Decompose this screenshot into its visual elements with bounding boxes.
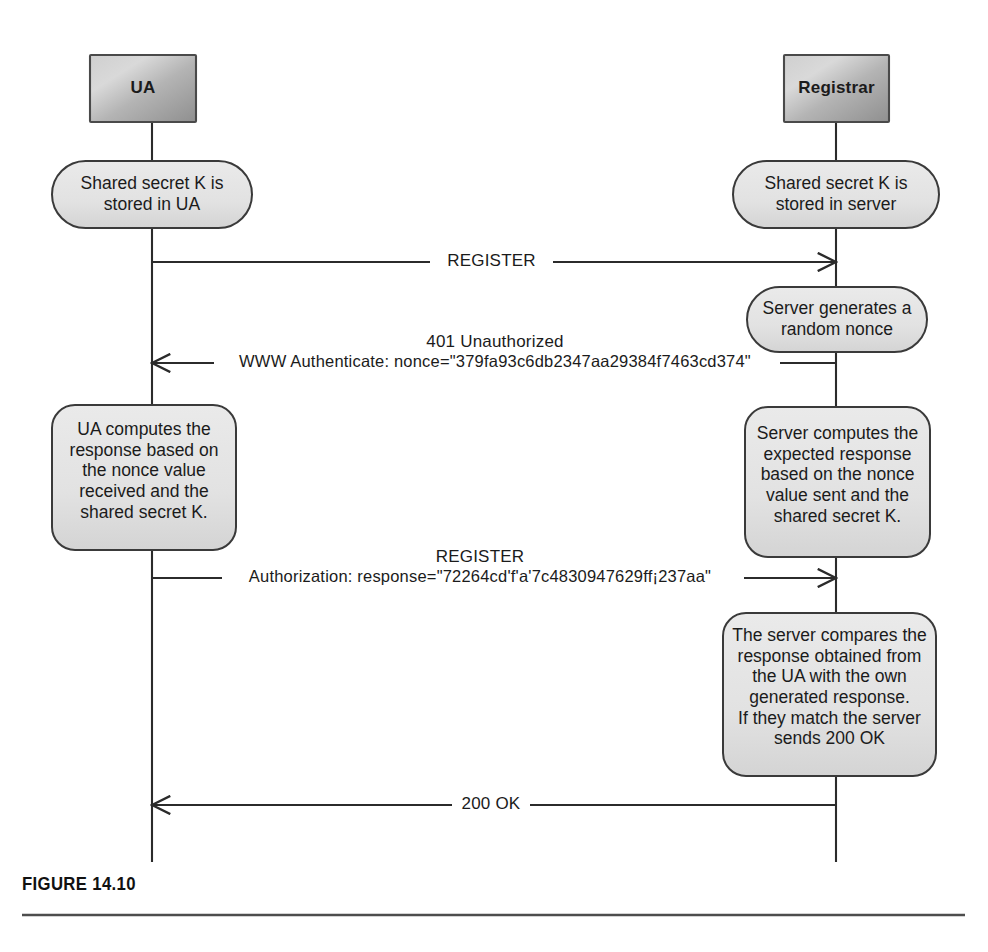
note-line: Shared secret K is xyxy=(733,173,939,194)
note-line: If they match the server xyxy=(721,708,938,729)
message-line: WWW Authenticate: nonce="379fa93c6db2347… xyxy=(200,352,790,371)
note-line: shared secret K. xyxy=(52,502,236,523)
note-line: UA computes the xyxy=(52,419,236,440)
message-line: Authorization: response="72264cd'f'a'7c4… xyxy=(200,567,760,586)
message-label-200-ok: 200 OK xyxy=(452,794,530,814)
note-line: the nonce value xyxy=(52,460,236,481)
message-label-register-2: REGISTER Authorization: response="72264c… xyxy=(200,547,760,587)
message-line: REGISTER xyxy=(200,547,760,567)
message-label-register-1: REGISTER xyxy=(432,251,551,271)
note-line: the UA with the own xyxy=(721,666,938,687)
note-line: value sent and the xyxy=(742,485,933,506)
note-text-server-compares: The server compares the response obtaine… xyxy=(721,625,938,749)
note-line: Server generates a xyxy=(742,298,932,319)
actor-label-registrar: Registrar xyxy=(784,78,889,98)
note-line: generated response. xyxy=(721,687,938,708)
note-line: response based on xyxy=(52,440,236,461)
actor-label-ua: UA xyxy=(90,78,196,98)
note-line: stored in UA xyxy=(52,194,252,215)
figure-container: UA Registrar Shared secret K is stored i… xyxy=(0,0,988,952)
note-line: Server computes the xyxy=(742,423,933,444)
note-line: stored in server xyxy=(733,194,939,215)
note-text-ua-shared-secret: Shared secret K is stored in UA xyxy=(52,173,252,214)
message-line: 401 Unauthorized xyxy=(200,332,790,352)
note-line: response obtained from xyxy=(721,646,938,667)
note-text-server-computes: Server computes the expected response ba… xyxy=(742,423,933,526)
note-line: Shared secret K is xyxy=(52,173,252,194)
note-line: based on the nonce xyxy=(742,464,933,485)
note-line: received and the xyxy=(52,481,236,502)
note-text-server-shared-secret: Shared secret K is stored in server xyxy=(733,173,939,214)
message-label-401-unauthorized: 401 Unauthorized WWW Authenticate: nonce… xyxy=(200,332,790,372)
figure-caption: FIGURE 14.10 xyxy=(22,873,136,895)
note-line: The server compares the xyxy=(721,625,938,646)
note-line: sends 200 OK xyxy=(721,728,938,749)
note-line: expected response xyxy=(742,444,933,465)
note-line: shared secret K. xyxy=(742,506,933,527)
note-text-ua-computes: UA computes the response based on the no… xyxy=(52,419,236,522)
